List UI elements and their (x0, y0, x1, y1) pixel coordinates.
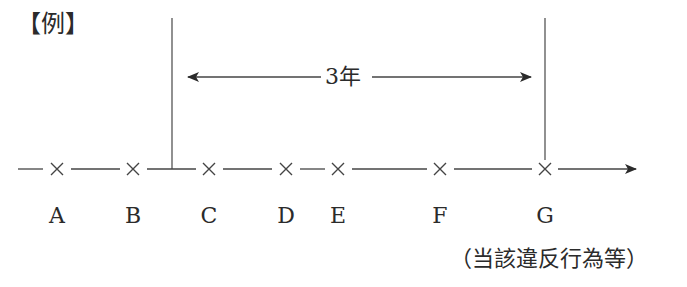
timeline-diagram (0, 0, 687, 287)
point-label-f: F (432, 205, 447, 227)
marker-d (280, 163, 292, 175)
point-label-g: G (536, 205, 554, 227)
violation-note: （当該違反行為等） (450, 246, 648, 272)
marker-g (539, 163, 551, 175)
point-label-e: E (330, 205, 346, 227)
point-label-b: B (125, 205, 141, 227)
marker-a (51, 163, 63, 175)
point-label-a: A (49, 205, 65, 227)
point-label-c: C (201, 205, 218, 227)
period-label: 3年 (321, 63, 365, 91)
marker-b (127, 163, 139, 175)
marker-e (332, 163, 344, 175)
marker-c (203, 163, 215, 175)
point-label-d: D (277, 205, 295, 227)
marker-f (434, 163, 446, 175)
